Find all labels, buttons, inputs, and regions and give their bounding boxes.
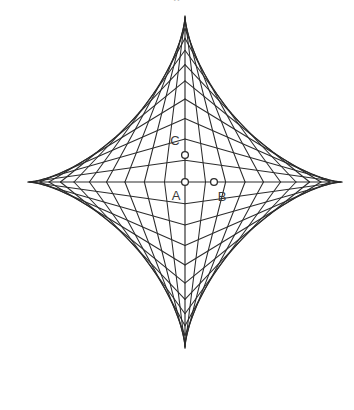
point-label-group: ABC — [170, 133, 226, 204]
envelope-segment — [185, 182, 341, 204]
envelope-segment — [185, 160, 341, 182]
point-marker-a — [182, 179, 189, 186]
point-marker-b — [211, 179, 218, 186]
vertex-dot-group — [182, 152, 218, 186]
point-label-c: C — [170, 133, 179, 148]
envelope-segment — [165, 182, 185, 347]
point-marker-c — [182, 152, 189, 159]
point-label-a: A — [172, 188, 181, 203]
envelope-segment — [29, 182, 185, 204]
point-label-b: B — [218, 189, 227, 204]
astroid-diagram: ABC — [0, 0, 354, 410]
envelope-segment — [29, 160, 185, 182]
envelope-segment — [185, 182, 205, 347]
figure-root: o ABC — [0, 0, 354, 410]
